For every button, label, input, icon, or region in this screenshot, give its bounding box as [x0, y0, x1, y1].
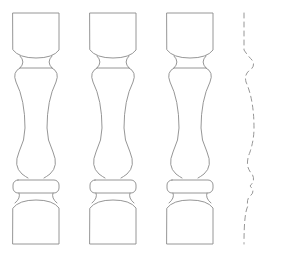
baluster-drawing — [0, 0, 282, 262]
baluster-1 — [13, 13, 59, 244]
baluster-2 — [90, 13, 136, 244]
baluster-svg — [0, 0, 282, 262]
baluster-3 — [167, 13, 213, 244]
dashed-profile — [244, 13, 254, 244]
